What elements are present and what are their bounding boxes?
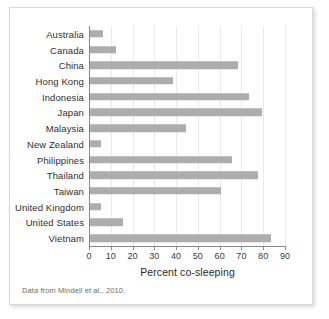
x-axis-line xyxy=(89,246,286,247)
bar-row: Malaysia xyxy=(89,120,285,136)
bar-row: Philippines xyxy=(89,152,285,168)
bar-row: Canada xyxy=(89,42,285,58)
category-label: United States xyxy=(26,217,84,228)
category-label: Hong Kong xyxy=(36,75,84,86)
bar-row: Thailand xyxy=(89,167,285,183)
bar xyxy=(90,172,258,180)
x-axis-label: Percent co-sleeping xyxy=(89,266,286,278)
category-label: Taiwan xyxy=(54,185,84,196)
bar-row: Taiwan xyxy=(89,183,285,199)
bar xyxy=(90,219,123,227)
gridline-90 xyxy=(285,26,286,246)
bar xyxy=(90,77,173,85)
bar xyxy=(90,93,249,101)
x-tick-label-70: 70 xyxy=(236,251,246,261)
bar-row: New Zealand xyxy=(89,136,285,152)
plot-area: AustraliaCanadaChinaHong KongIndonesiaJa… xyxy=(89,26,285,246)
bar-row: China xyxy=(89,57,285,73)
bar xyxy=(90,140,101,148)
bar xyxy=(90,187,221,195)
bar-row: Japan xyxy=(89,105,285,121)
x-tick-label-80: 80 xyxy=(258,251,268,261)
source-note: Data from Mindell et al., 2010. xyxy=(22,286,125,295)
category-label: New Zealand xyxy=(27,138,84,149)
x-tick-label-90: 90 xyxy=(280,251,290,261)
x-tick-label-40: 40 xyxy=(171,251,181,261)
x-tick-label-60: 60 xyxy=(215,251,225,261)
figure-panel: 0102030405060708090 AustraliaCanadaChina… xyxy=(9,7,313,305)
category-label: Canada xyxy=(50,44,84,55)
category-label: Thailand xyxy=(47,170,84,181)
x-tick-label-10: 10 xyxy=(106,251,116,261)
bar-row: Vietnam xyxy=(89,230,285,246)
bar xyxy=(90,234,271,242)
bar xyxy=(90,124,186,132)
bar-row: Indonesia xyxy=(89,89,285,105)
category-label: Vietnam xyxy=(49,233,84,244)
bar-row: Australia xyxy=(89,26,285,42)
category-label: China xyxy=(59,60,84,71)
category-label: Indonesia xyxy=(42,91,84,102)
category-label: Philippines xyxy=(37,154,84,165)
x-tick-label-20: 20 xyxy=(127,251,137,261)
bar xyxy=(90,109,262,117)
category-label: Japan xyxy=(58,107,84,118)
x-tick-label-50: 50 xyxy=(193,251,203,261)
bar xyxy=(90,46,116,54)
category-label: Australia xyxy=(46,28,84,39)
bar-row: United Kingdom xyxy=(89,199,285,215)
x-tick-label-30: 30 xyxy=(149,251,159,261)
chart-canvas: 0102030405060708090 AustraliaCanadaChina… xyxy=(10,8,314,306)
category-label: Malaysia xyxy=(46,123,84,134)
bar xyxy=(90,203,101,211)
bar xyxy=(90,156,232,164)
bar xyxy=(90,30,103,38)
x-tick-label-0: 0 xyxy=(86,251,91,261)
category-label: United Kingdom xyxy=(15,201,84,212)
bar-row: United States xyxy=(89,215,285,231)
bar xyxy=(90,62,238,70)
bar-row: Hong Kong xyxy=(89,73,285,89)
